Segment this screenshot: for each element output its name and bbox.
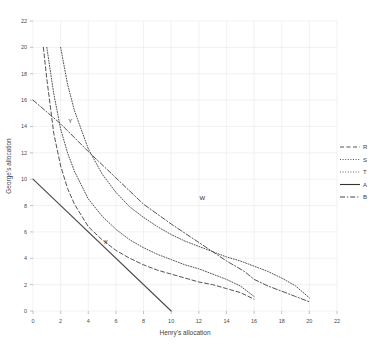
x-tick-label: 6 xyxy=(114,318,117,324)
legend-label-A[interactable]: A xyxy=(363,182,367,188)
x-tick-label: 16 xyxy=(251,318,257,324)
x-tick-label: 2 xyxy=(59,318,62,324)
x-tick-label: 14 xyxy=(223,318,229,324)
chart-root: 02468101214161820220246810121416182022 W… xyxy=(0,0,382,346)
x-tick-label: 22 xyxy=(334,318,340,324)
y-tick-label: 20 xyxy=(21,44,27,50)
legend-label-T[interactable]: T xyxy=(363,169,367,175)
x-tick-label: 0 xyxy=(31,318,34,324)
y-tick-label: 0 xyxy=(24,308,27,314)
y-tick-label: 18 xyxy=(21,71,27,77)
legend-label-B[interactable]: B xyxy=(363,194,367,200)
y-tick-label: 4 xyxy=(24,255,27,261)
y-tick-label: 8 xyxy=(24,203,27,209)
series-R xyxy=(43,47,254,299)
y-tick-label: 22 xyxy=(21,18,27,24)
y-tick-label: 2 xyxy=(24,282,27,288)
legend-label-S[interactable]: S xyxy=(363,157,367,163)
point-annotations: WXY xyxy=(68,118,205,245)
annotation-Y: Y xyxy=(68,118,72,124)
x-tick-label: 12 xyxy=(196,318,202,324)
annotation-X: X xyxy=(104,239,108,245)
grid-lines xyxy=(33,21,337,311)
x-tick-label: 18 xyxy=(279,318,285,324)
x-tick-label: 4 xyxy=(87,318,90,324)
y-tick-label: 10 xyxy=(21,176,27,182)
legend: RSTAB xyxy=(340,144,368,200)
series-T xyxy=(61,47,310,297)
x-tick-label: 10 xyxy=(168,318,174,324)
x-tick-label: 20 xyxy=(306,318,312,324)
y-axis-title: George's allocation xyxy=(5,138,13,194)
y-tick-label: 6 xyxy=(24,229,27,235)
y-tick-label: 14 xyxy=(21,123,27,129)
x-axis-title: Henry's allocation xyxy=(159,329,210,337)
x-tick-label: 8 xyxy=(142,318,145,324)
annotation-W: W xyxy=(199,195,205,201)
series-A xyxy=(33,179,171,311)
allocation-chart: 02468101214161820220246810121416182022 W… xyxy=(0,0,382,346)
y-tick-label: 12 xyxy=(21,150,27,156)
y-tick-label: 16 xyxy=(21,97,27,103)
legend-label-R[interactable]: R xyxy=(363,144,368,150)
axis-ticks: 02468101214161820220246810121416182022 xyxy=(21,18,340,324)
